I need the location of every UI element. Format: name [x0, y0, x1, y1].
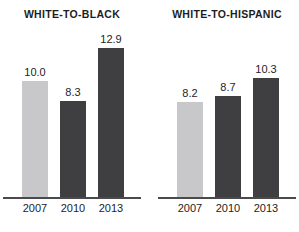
x-axis-tick-labels: 2007 2010 2013	[0, 202, 144, 222]
bar-series-white-to-hispanic: 8.2 8.7 10.3	[155, 0, 299, 197]
bar-rect[interactable]	[177, 102, 203, 197]
x-axis-line	[3, 197, 141, 199]
x-tick-label: 2013	[89, 202, 133, 214]
plot-area-white-to-black: 10.0 8.3 12.9	[0, 0, 144, 197]
x-axis-line	[158, 197, 296, 199]
bar-value-label: 8.3	[51, 86, 95, 98]
chart-panel-white-to-hispanic: WHITE-TO-HISPANIC 8.2 8.7 10.3 2007	[155, 0, 299, 232]
bar-value-label: 10.0	[13, 66, 57, 78]
bar-rect[interactable]	[215, 96, 241, 197]
bar-value-label: 8.7	[206, 81, 250, 93]
bar-value-label: 10.3	[244, 63, 288, 75]
x-tick-label: 2013	[244, 202, 288, 214]
x-axis-tick-labels: 2007 2010 2013	[155, 202, 299, 222]
chart-panel-white-to-black: WHITE-TO-BLACK 10.0 8.3 12.9 2007	[0, 0, 144, 232]
bar-rect[interactable]	[60, 101, 86, 197]
bar-rect[interactable]	[253, 78, 279, 197]
bar-series-white-to-black: 10.0 8.3 12.9	[0, 0, 144, 197]
bar-value-label: 12.9	[89, 33, 133, 45]
plot-area-white-to-hispanic: 8.2 8.7 10.3	[155, 0, 299, 197]
bar-rect[interactable]	[22, 81, 48, 197]
bar-rect[interactable]	[98, 48, 124, 197]
chart-figure: WHITE-TO-BLACK 10.0 8.3 12.9 2007	[0, 0, 299, 232]
